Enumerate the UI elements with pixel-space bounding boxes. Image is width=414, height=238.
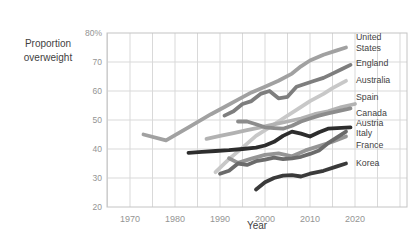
y-tick-label: 20 bbox=[93, 202, 103, 212]
series-line-united-states bbox=[144, 48, 347, 141]
y-tick-label: 80% bbox=[85, 28, 102, 38]
country-label-united-states: States bbox=[356, 43, 382, 53]
y-axis-title-line1: Proportion bbox=[12, 37, 84, 51]
country-label-australia: Australia bbox=[356, 75, 390, 85]
y-tick-label: 60 bbox=[93, 86, 103, 96]
y-tick-label: 70 bbox=[93, 57, 103, 67]
y-axis-title: Proportion overweight bbox=[12, 37, 84, 65]
y-tick-label: 30 bbox=[93, 173, 103, 183]
country-label-austria: Austria bbox=[356, 118, 383, 128]
country-label-korea: Korea bbox=[356, 158, 380, 168]
country-label-united-states: United bbox=[356, 32, 382, 42]
chart-plot-area: 80%706050403020197019801990200020102020U… bbox=[0, 0, 414, 238]
y-axis-title-line2: overweight bbox=[12, 51, 84, 65]
y-tick-label: 50 bbox=[93, 115, 103, 125]
country-label-spain: Spain bbox=[356, 92, 379, 102]
country-label-france: France bbox=[356, 140, 383, 150]
overweight-by-year-chart: 80%706050403020197019801990200020102020U… bbox=[0, 0, 414, 238]
country-label-england: England bbox=[356, 58, 388, 68]
country-label-canada: Canada bbox=[356, 108, 387, 118]
x-axis-title: Year bbox=[107, 220, 407, 231]
y-tick-label: 40 bbox=[93, 144, 103, 154]
country-label-italy: Italy bbox=[356, 128, 373, 138]
